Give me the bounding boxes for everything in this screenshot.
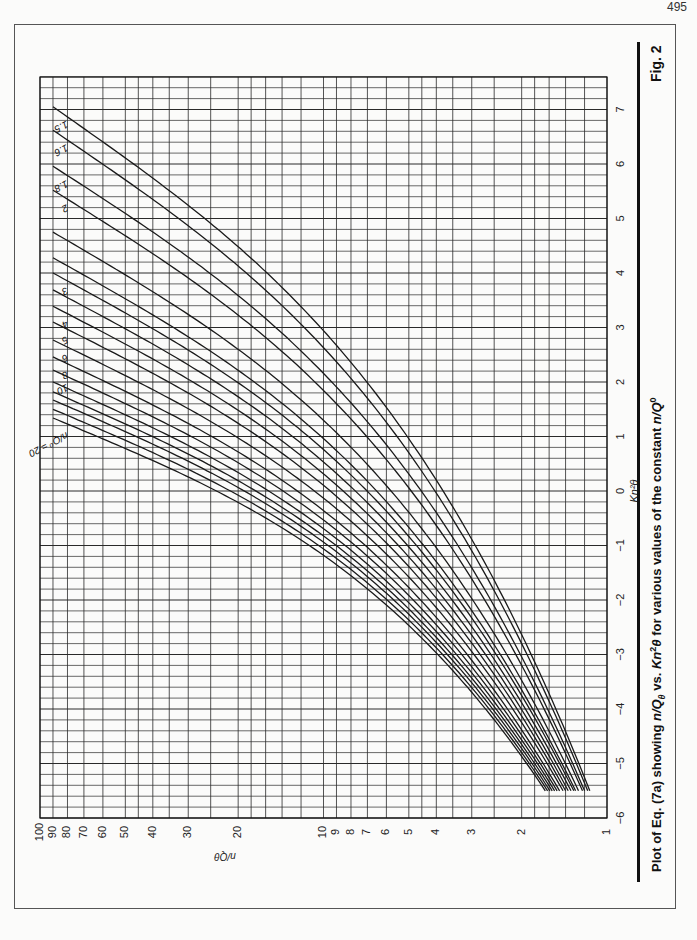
y-tick-label: 1 — [600, 829, 612, 835]
caption-sup: 2 — [648, 647, 658, 652]
x-tick-label: 5 — [614, 215, 626, 221]
y-tick-label: 90 — [46, 826, 58, 838]
x-tick-label: 4 — [614, 270, 626, 276]
y-tick-label: 30 — [181, 826, 193, 838]
y-tick-label: 80 — [60, 826, 72, 838]
curve-2-5 — [53, 232, 579, 791]
caption-var: n/Q — [649, 402, 664, 424]
y-tick-label: 3 — [465, 829, 477, 835]
figure-label: Fig. 2 — [648, 45, 664, 82]
curve-label: 2 — [60, 202, 71, 215]
y-axis-label: n/Qθ — [214, 851, 236, 862]
y-tick-label: 60 — [96, 826, 108, 838]
caption-var: n/Q — [649, 699, 664, 721]
x-tick-label: −4 — [614, 703, 626, 716]
curve-4 — [53, 306, 568, 791]
x-tick-label: −1 — [614, 539, 626, 552]
y-tick-label: 50 — [118, 826, 130, 838]
curve-label: 4 — [60, 318, 70, 331]
caption-sub: θ — [657, 694, 667, 699]
caption-text: for various values of the constant — [649, 424, 664, 639]
x-tick-label: 6 — [614, 161, 626, 167]
curve-label: n/Q⁰ = 20 — [27, 430, 70, 459]
y-tick-label: 9 — [329, 829, 341, 835]
x-tick-label: −5 — [614, 757, 626, 770]
y-tick-label: 8 — [344, 829, 356, 835]
x-tick-label: 1 — [614, 433, 626, 439]
caption-sup: 0 — [648, 397, 658, 402]
x-tick-label: −2 — [614, 594, 626, 607]
x-tick-label: 0 — [614, 488, 626, 494]
y-tick-label: 10 — [316, 826, 328, 838]
caption-text: Plot of Eq. (7a) showing — [649, 721, 664, 872]
y-tick-label: 40 — [146, 826, 158, 838]
caption-rule — [637, 42, 640, 882]
x-tick-label: 2 — [614, 379, 626, 385]
caption-text: vs. — [649, 669, 664, 694]
x-tick-label: 7 — [614, 106, 626, 112]
y-tick-label: 20 — [231, 826, 243, 838]
curve-8 — [53, 357, 560, 791]
chart: 1.51.61.823456810n/Q⁰ = 20 −6−5−4−3−2−10… — [0, 0, 697, 940]
caption-var: Kn — [649, 652, 664, 669]
x-tick-label: −6 — [614, 812, 626, 825]
chart-curves: 1.51.61.823456810n/Q⁰ = 20 — [27, 107, 590, 791]
y-tick-label: 5 — [402, 829, 414, 835]
caption-var: θ — [649, 639, 664, 646]
chart-grid — [40, 77, 607, 818]
y-tick-label: 100 — [33, 823, 45, 841]
page: 495 1.51.61.823456810n/Q⁰ = 20 −6−5−4−3−… — [0, 0, 697, 940]
x-tick-label: −3 — [614, 648, 626, 661]
x-tick-label: 3 — [614, 324, 626, 330]
figure-caption: Plot of Eq. (7a) showing n/Qθ vs. Kn2θ f… — [648, 397, 667, 872]
curve-1-5 — [53, 107, 590, 791]
y-tick-label: 2 — [515, 829, 527, 835]
curve-label: 5 — [60, 334, 70, 347]
y-tick-label: 70 — [77, 826, 89, 838]
y-tick-label: 7 — [360, 829, 372, 835]
y-tick-label: 4 — [429, 829, 441, 835]
curve-12 — [53, 382, 555, 791]
y-tick-label: 6 — [379, 829, 391, 835]
